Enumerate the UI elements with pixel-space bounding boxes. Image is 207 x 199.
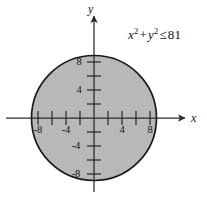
y-tick-label--8: -8 [68,168,84,179]
y-tick-label--4: -4 [68,140,84,151]
annotation-relation-sign: ≤ [158,27,167,42]
x-axis-label: x [191,111,196,126]
math-figure-circle-inequality: x2+y2≤81 x y -8 -4 4 8 8 4 -4 -8 [0,0,207,199]
x-tick-label--4: -4 [58,124,74,135]
annotation-value: 81 [168,27,181,42]
inequality-annotation: x2+y2≤81 [128,27,181,43]
x-tick-label--8: -8 [30,124,46,135]
x-tick-label-8: 8 [145,124,155,135]
annotation-plus-sign: + [138,27,148,42]
y-axis-label: y [88,2,93,17]
x-tick-label-4: 4 [117,124,127,135]
y-tick-label-4: 4 [74,84,84,95]
y-tick-label-8: 8 [74,56,84,67]
